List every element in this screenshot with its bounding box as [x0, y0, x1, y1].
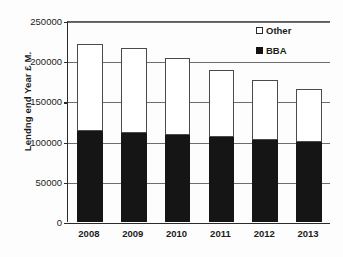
- y-tick-mark-250000: [64, 22, 68, 23]
- gridline-50000: [68, 183, 330, 184]
- bar-segment-other-2013: [296, 89, 322, 141]
- legend-item-other: Other: [256, 25, 291, 36]
- x-tick-label-2008: 2008: [78, 228, 99, 239]
- legend-swatch-bba-icon: [256, 47, 263, 54]
- x-tick-label-2012: 2012: [254, 228, 275, 239]
- x-tick-label-2013: 2013: [298, 228, 319, 239]
- gridline-0: [68, 223, 330, 224]
- bar-segment-bba-2008: [77, 131, 103, 222]
- y-tick-mark-200000: [64, 62, 68, 63]
- legend-swatch-other-icon: [256, 27, 263, 34]
- bar-group-2010: [165, 21, 191, 222]
- gridline-200000: [68, 62, 330, 63]
- bar-segment-other-2011: [209, 70, 235, 137]
- bar-group-2009: [121, 21, 147, 222]
- y-tick-label: 100000: [0, 136, 62, 147]
- y-tick-mark-50000: [64, 183, 68, 184]
- bar-group-2013: [296, 21, 322, 222]
- y-tick-label: 150000: [0, 96, 62, 107]
- legend-label-bba: BBA: [266, 45, 287, 56]
- y-tick-mark-100000: [64, 143, 68, 144]
- bar-group-2011: [209, 21, 235, 222]
- bar-segment-other-2010: [165, 58, 191, 135]
- y-tick-label: 50000: [0, 176, 62, 187]
- gridline-100000: [68, 143, 330, 144]
- legend-item-bba: BBA: [256, 45, 291, 56]
- bar-segment-bba-2012: [252, 140, 278, 222]
- x-tick-label-2010: 2010: [166, 228, 187, 239]
- bar-segment-bba-2010: [165, 135, 191, 222]
- bar-segment-bba-2011: [209, 137, 235, 222]
- bar-segment-other-2008: [77, 44, 103, 131]
- x-tick-label-2011: 2011: [210, 228, 231, 239]
- chart-legend: Other BBA: [256, 25, 291, 56]
- bar-segment-other-2009: [121, 48, 147, 132]
- legend-label-other: Other: [266, 25, 291, 36]
- gridline-150000: [68, 102, 330, 103]
- gridline-250000: [68, 22, 330, 23]
- bar-group-2008: [77, 21, 103, 222]
- y-tick-mark-0: [64, 223, 68, 224]
- stacked-bar-chart: Lendng end Year £ M. Other BBA 050000100…: [0, 0, 343, 257]
- y-tick-label: 250000: [0, 16, 62, 27]
- bar-segment-bba-2013: [296, 142, 322, 222]
- bar-segment-other-2012: [252, 80, 278, 140]
- y-tick-mark-150000: [64, 102, 68, 103]
- y-tick-label: 0: [0, 217, 62, 228]
- bar-segment-bba-2009: [121, 133, 147, 222]
- y-tick-label: 200000: [0, 56, 62, 67]
- x-tick-label-2009: 2009: [122, 228, 143, 239]
